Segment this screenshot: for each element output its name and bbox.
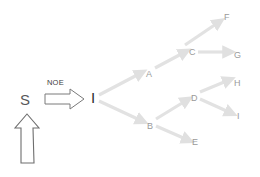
tree-node-c: C [189,48,196,57]
tree-node-i: I [237,112,240,121]
tree-node-f: F [224,13,230,22]
tree-node-h: H [234,79,241,88]
up-arrow-outline-icon [15,114,39,163]
tree-node-g: G [234,51,241,60]
noe-label: NOE [47,79,64,87]
tree-node-a: A [146,70,152,79]
source-spin-label: S [20,92,30,107]
tree-node-d: D [191,94,198,103]
diagram-canvas: NOE S I A B C D E F G H I [0,0,260,177]
tree-node-e: E [192,138,198,147]
tree-node-b: B [147,122,153,131]
up-arrow-layer [0,0,260,177]
root-spin-label: I [91,90,95,105]
